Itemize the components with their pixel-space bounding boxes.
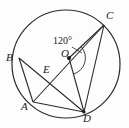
- chord-ab-segment: [19, 58, 33, 102]
- angle-measure-label: 120°: [53, 36, 72, 46]
- radius-od-segment: [69, 58, 84, 112]
- chord-ad-segment: [33, 102, 84, 112]
- center-label-o: O: [61, 48, 69, 59]
- vertex-label-a: A: [21, 101, 28, 112]
- vertex-label-d: D: [83, 113, 91, 124]
- chord-cd-segment: [84, 25, 104, 112]
- radius-oc-segment: [69, 25, 104, 58]
- vertex-label-e: E: [43, 64, 50, 75]
- vertex-label-c: C: [106, 10, 113, 21]
- vertex-label-b: B: [6, 52, 13, 63]
- geometry-figure: B A C D E O 120°: [0, 0, 129, 128]
